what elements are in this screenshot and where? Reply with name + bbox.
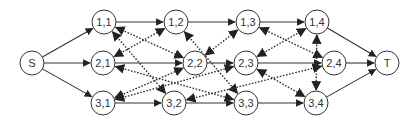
node-3-3: 3,3 bbox=[234, 91, 258, 115]
dotted-edges bbox=[113, 27, 323, 100]
edge-S-to-3,1 bbox=[42, 69, 91, 97]
node-1-4: 1,4 bbox=[305, 10, 329, 34]
node-label: S bbox=[28, 57, 35, 69]
node-label: 2,2 bbox=[187, 57, 202, 69]
node-label: 1,4 bbox=[309, 16, 324, 28]
node-3-1: 3,1 bbox=[91, 91, 115, 115]
edge-S-to-1,1 bbox=[42, 28, 92, 57]
node-label: 2,1 bbox=[95, 57, 110, 69]
dotted-edge-2,2-1,3 bbox=[205, 30, 237, 55]
node-2-2: 2,2 bbox=[183, 51, 207, 75]
node-T: T bbox=[375, 51, 399, 75]
node-2-4: 2,4 bbox=[322, 51, 346, 75]
dotted-edge-2,3-3,4 bbox=[257, 69, 304, 96]
dotted-edge-2,3-1,4 bbox=[257, 29, 305, 57]
node-2-1: 2,1 bbox=[91, 51, 115, 75]
node-label: 3,3 bbox=[238, 97, 253, 109]
node-label: 1,3 bbox=[240, 16, 255, 28]
node-label: 2,4 bbox=[326, 57, 341, 69]
node-S: S bbox=[20, 51, 44, 75]
node-1-1: 1,1 bbox=[92, 10, 116, 34]
node-1-2: 1,2 bbox=[164, 10, 188, 34]
node-label: 2,3 bbox=[238, 57, 253, 69]
node-label: 1,2 bbox=[168, 16, 183, 28]
node-label: 3,1 bbox=[95, 97, 110, 109]
node-1-3: 1,3 bbox=[236, 10, 260, 34]
graph-diagram: S1,12,13,11,22,23,21,32,33,31,42,43,4T bbox=[0, 0, 418, 122]
node-label: 3,4 bbox=[308, 97, 323, 109]
node-label: 3,2 bbox=[166, 97, 181, 109]
node-3-4: 3,4 bbox=[304, 91, 328, 115]
node-2-3: 2,3 bbox=[234, 51, 258, 75]
node-label: 1,1 bbox=[96, 16, 111, 28]
node-label: T bbox=[384, 57, 391, 69]
node-3-2: 3,2 bbox=[162, 91, 186, 115]
